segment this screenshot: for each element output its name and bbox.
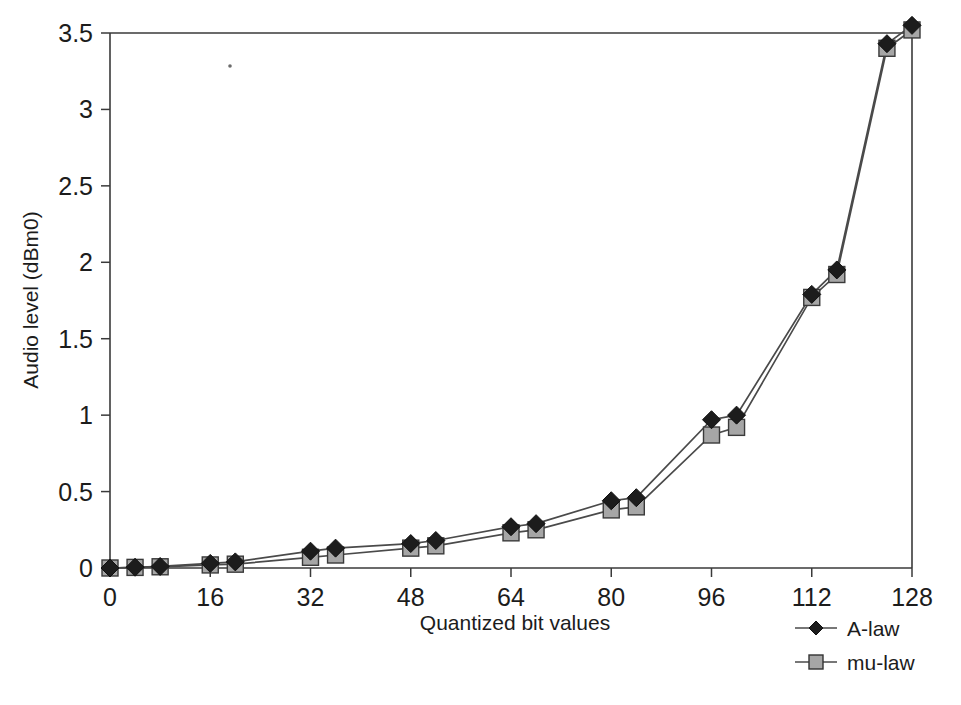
series-markers [101, 16, 921, 577]
chart-legend: A-law mu-law [795, 617, 916, 674]
legend-item-mu-law[interactable]: mu-law [795, 651, 916, 674]
y-tick-label: 1 [79, 401, 93, 429]
x-tick-label: 48 [397, 583, 425, 611]
plot-frame [110, 33, 912, 568]
x-axis-ticks: 0163248648096112128 [103, 568, 933, 611]
diamond-icon [809, 621, 823, 635]
x-tick-label: 112 [792, 583, 832, 611]
x-tick-label: 128 [891, 583, 933, 611]
y-tick-label: 0 [79, 554, 93, 582]
y-tick-label: 2.5 [58, 172, 93, 200]
y-axis-ticks: 00.511.522.533.5 [58, 19, 110, 582]
legend-label-a-law: A-law [847, 617, 900, 640]
line-chart: 00.511.522.533.5 0163248648096112128 Qua… [0, 0, 961, 705]
x-tick-label: 64 [497, 583, 525, 611]
legend-label-mu-law: mu-law [847, 651, 916, 674]
legend-item-a-law[interactable]: A-law [795, 617, 900, 640]
x-tick-label: 16 [196, 583, 224, 611]
x-tick-label: 96 [698, 583, 726, 611]
x-axis-title: Quantized bit values [420, 611, 610, 634]
square-icon [809, 655, 823, 669]
x-tick-label: 32 [297, 583, 325, 611]
y-axis-title: Audio level (dBm0) [19, 211, 42, 388]
y-tick-label: 3 [79, 95, 93, 123]
x-tick-label: 0 [103, 583, 117, 611]
series-line-mu-law [110, 30, 912, 568]
scan-artifacts [228, 64, 232, 68]
series-lines [110, 25, 912, 568]
y-tick-label: 3.5 [58, 19, 93, 47]
y-tick-label: 1.5 [58, 325, 93, 353]
y-tick-label: 0.5 [58, 478, 93, 506]
chart-container: 00.511.522.533.5 0163248648096112128 Qua… [0, 0, 961, 705]
series-line-a-law [110, 25, 912, 568]
y-tick-label: 2 [79, 248, 93, 276]
x-tick-label: 80 [597, 583, 625, 611]
